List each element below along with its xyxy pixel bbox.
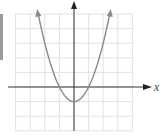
- axes: [8, 1, 152, 131]
- chart-figure: x: [0, 0, 163, 138]
- x-axis-label: x: [153, 80, 160, 94]
- parabola-chart: x: [0, 0, 163, 138]
- curve-arrow-right-icon: [107, 9, 113, 17]
- x-axis-arrow-icon: [143, 84, 152, 90]
- curve-arrow-left-icon: [35, 9, 41, 17]
- y-axis-arrow-icon: [71, 1, 77, 9]
